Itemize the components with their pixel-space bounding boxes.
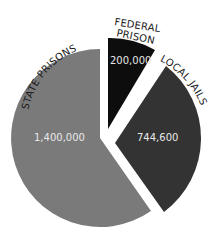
value-label-local-jails: 744,600	[137, 132, 178, 143]
pie-chart: 1,400,000 200,000 744,600 STATE PRISONS …	[0, 0, 218, 230]
value-label-federal-prison: 200,000	[110, 55, 151, 66]
value-label-state-prisons: 1,400,000	[34, 132, 85, 143]
